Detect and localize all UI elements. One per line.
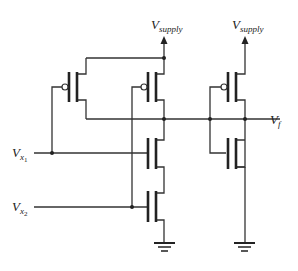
junction-dot [50, 151, 54, 155]
m2-gate-wire [132, 87, 141, 207]
junction-dot [208, 117, 212, 121]
ground-icon [158, 247, 171, 251]
m5-bubble-icon [221, 84, 227, 90]
inverter-supply-wire [236, 40, 245, 167]
circuit-schematic [0, 0, 298, 271]
supply-arrow-icon [242, 36, 249, 44]
junction-dot [162, 56, 166, 60]
junction-dot [243, 117, 247, 121]
m2-bubble-icon [141, 84, 147, 90]
m3-m4-wire [156, 119, 164, 243]
vx1-label: Vx1 [12, 146, 27, 164]
vf-label: Vf [270, 113, 280, 129]
supply-arrow-icon [161, 36, 168, 44]
m1-channel [77, 58, 86, 119]
m1-gate-wire [52, 87, 62, 153]
vsupply-label-1: Vsupply [151, 18, 182, 34]
vx2-label: Vx2 [12, 200, 27, 218]
junction-dot [130, 205, 134, 209]
inverter-gate-wire [210, 87, 226, 153]
m1-bubble-icon [62, 84, 68, 90]
junction-dot [162, 117, 166, 121]
ground-icon [238, 247, 251, 251]
vsupply-label-2: Vsupply [232, 18, 263, 34]
